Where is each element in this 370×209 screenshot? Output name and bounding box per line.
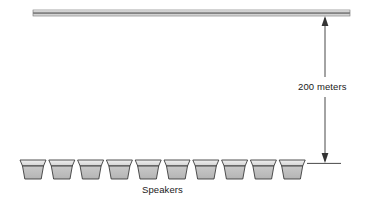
speaker-rim bbox=[222, 160, 248, 166]
speaker-body bbox=[109, 166, 130, 179]
dimension-arrowhead-up-icon bbox=[322, 16, 329, 26]
speaker-array bbox=[20, 160, 305, 179]
speaker-rim bbox=[49, 160, 75, 166]
speaker-body bbox=[224, 166, 245, 179]
speaker-cabinet bbox=[279, 160, 305, 179]
speaker-body bbox=[51, 166, 72, 179]
speakers-label: Speakers bbox=[0, 184, 325, 195]
speaker-rim bbox=[164, 160, 190, 166]
speaker-cabinet bbox=[78, 160, 104, 179]
speaker-rim bbox=[250, 160, 276, 166]
speaker-cabinet bbox=[135, 160, 161, 179]
speaker-body bbox=[282, 166, 303, 179]
speaker-cabinet bbox=[106, 160, 132, 179]
diagram-canvas: 200 meters Speakers bbox=[0, 0, 370, 209]
speaker-array-diagram bbox=[0, 0, 370, 209]
speaker-rim bbox=[78, 160, 104, 166]
speaker-body bbox=[80, 166, 101, 179]
speaker-cabinet bbox=[222, 160, 248, 179]
speaker-rim bbox=[193, 160, 219, 166]
dimension-arrowhead-down-icon bbox=[322, 153, 329, 163]
speaker-rim bbox=[20, 160, 46, 166]
speaker-body bbox=[253, 166, 274, 179]
speaker-cabinet bbox=[250, 160, 276, 179]
dimension-label: 200 meters bbox=[298, 81, 347, 92]
speaker-cabinet bbox=[193, 160, 219, 179]
speaker-rim bbox=[106, 160, 132, 166]
speaker-rim bbox=[135, 160, 161, 166]
speaker-cabinet bbox=[164, 160, 190, 179]
speaker-cabinet bbox=[20, 160, 46, 179]
speaker-body bbox=[23, 166, 44, 179]
overhead-beam bbox=[33, 10, 350, 16]
speaker-body bbox=[138, 166, 159, 179]
speaker-body bbox=[167, 166, 188, 179]
speaker-rim bbox=[279, 160, 305, 166]
speaker-body bbox=[195, 166, 216, 179]
speaker-cabinet bbox=[49, 160, 75, 179]
